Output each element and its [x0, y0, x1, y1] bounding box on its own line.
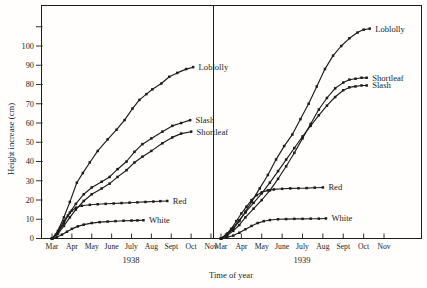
series-marker-red-1939: [225, 233, 228, 236]
series-marker-slash-1939: [238, 219, 241, 222]
month-label: Mar: [46, 242, 59, 251]
series-label-red-1938: Red: [173, 196, 188, 206]
series-marker-red-1939: [289, 187, 292, 190]
series-marker-white-1939: [256, 222, 259, 225]
series-marker-red-1938: [81, 205, 84, 208]
series-marker-shortleaf-1938: [133, 161, 136, 164]
series-marker-red-1938: [136, 201, 139, 204]
series-marker-white-1938: [83, 223, 86, 226]
series-marker-slash-1939: [342, 89, 345, 92]
series-label-loblolly-1938: Loblolly: [199, 62, 229, 72]
series-marker-white-1939: [263, 220, 266, 223]
series-marker-slash-1938: [91, 186, 94, 189]
series-marker-loblolly-1939: [307, 103, 310, 106]
series-marker-loblolly-1939: [340, 45, 343, 48]
series-marker-red-1938: [112, 202, 115, 205]
series-marker-slash-1939: [277, 170, 280, 173]
series-marker-white-1938: [56, 236, 59, 239]
y-tick-label: 50: [26, 138, 34, 147]
series-marker-shortleaf-1939: [348, 78, 351, 81]
series-marker-white-1938: [114, 220, 117, 223]
series-marker-shortleaf-1939: [334, 87, 337, 90]
x-axis-title: Time of year: [209, 270, 253, 280]
series-marker-loblolly-1938: [131, 107, 134, 110]
y-tick-label: 80: [26, 80, 34, 89]
series-marker-slash-1939: [334, 96, 337, 99]
series-marker-white-1939: [250, 225, 253, 228]
series-marker-loblolly-1938: [97, 150, 100, 153]
series-marker-loblolly-1938: [185, 68, 188, 71]
series-line-shortleaf-1938: [52, 132, 191, 239]
series-marker-slash-1938: [83, 193, 86, 196]
month-label: Aug: [316, 242, 329, 251]
series-marker-red-1938: [104, 203, 107, 206]
series-marker-loblolly-1938: [89, 161, 92, 164]
growth-chart: 0102030405060708090100MarAprMayJuneJulyA…: [0, 0, 427, 288]
series-marker-shortleaf-1939: [326, 97, 329, 100]
series-line-loblolly-1939: [221, 29, 370, 239]
series-marker-loblolly-1939: [299, 118, 302, 121]
series-marker-red-1938: [63, 220, 65, 223]
series-marker-slash-1939: [360, 84, 363, 87]
series-marker-shortleaf-1938: [100, 187, 103, 190]
series-marker-loblolly-1938: [115, 129, 118, 132]
series-marker-slash-1938: [133, 151, 136, 154]
series-marker-white-1939: [285, 218, 288, 221]
series-marker-white-1938: [106, 220, 109, 223]
month-label: Aug: [145, 242, 158, 251]
y-tick-label: 90: [26, 61, 34, 70]
series-marker-red-1939: [261, 191, 264, 194]
series-marker-loblolly-1939: [324, 68, 327, 71]
series-marker-red-1938: [159, 200, 162, 203]
series-marker-slash-1939: [354, 85, 357, 88]
series-marker-loblolly-1938: [123, 119, 126, 122]
series-marker-shortleaf-1939: [342, 81, 345, 84]
series-marker-white-1938: [98, 221, 101, 224]
series-marker-red-1939: [240, 212, 243, 215]
y-tick-label: 10: [26, 215, 34, 224]
series-marker-slash-1939: [365, 84, 368, 87]
series-marker-loblolly-1939: [369, 27, 372, 30]
series-marker-red-1939: [245, 206, 248, 209]
series-line-red-1939: [221, 188, 323, 239]
series-marker-slash-1938: [100, 181, 103, 184]
series-marker-shortleaf-1938: [150, 150, 153, 153]
series-marker-slash-1938: [125, 160, 128, 163]
series-marker-red-1939: [297, 187, 300, 190]
series-marker-slash-1938: [171, 125, 174, 128]
month-label: May: [255, 242, 269, 251]
month-label: June: [105, 242, 120, 251]
series-marker-loblolly-1938: [69, 201, 72, 204]
series-label-loblolly-1939: Loblolly: [375, 24, 405, 34]
series-marker-loblolly-1938: [63, 216, 65, 219]
series-marker-shortleaf-1938: [190, 130, 193, 133]
series-marker-slash-1939: [326, 104, 329, 107]
series-marker-red-1939: [230, 228, 233, 231]
series-marker-white-1938: [77, 225, 80, 228]
series-marker-white-1939: [269, 219, 272, 222]
y-tick-label: 40: [26, 157, 34, 166]
series-marker-red-1938: [55, 233, 58, 236]
series-marker-loblolly-1938: [76, 181, 79, 184]
y-tick-label: 60: [26, 119, 34, 128]
series-marker-red-1939: [250, 199, 253, 202]
series-marker-white-1939: [325, 217, 328, 220]
series-marker-shortleaf-1938: [91, 193, 94, 196]
series-marker-red-1939: [273, 188, 276, 191]
series-marker-loblolly-1939: [275, 158, 278, 161]
series-label-white-1939: White: [331, 213, 352, 223]
series-marker-slash-1939: [348, 86, 351, 89]
series-marker-loblolly-1939: [291, 133, 294, 136]
series-marker-slash-1938: [189, 119, 192, 122]
series-marker-slash-1938: [161, 130, 164, 133]
y-tick-label: 30: [26, 177, 34, 186]
series-marker-loblolly-1938: [145, 93, 148, 96]
series-marker-shortleaf-1939: [318, 108, 321, 111]
series-marker-shortleaf-1939: [354, 78, 357, 81]
series-marker-red-1939: [305, 187, 308, 190]
series-marker-loblolly-1938: [192, 66, 195, 69]
series-marker-red-1938: [75, 206, 78, 209]
series-marker-red-1939: [314, 186, 317, 189]
month-label: July: [125, 242, 138, 251]
series-marker-red-1938: [152, 200, 155, 203]
